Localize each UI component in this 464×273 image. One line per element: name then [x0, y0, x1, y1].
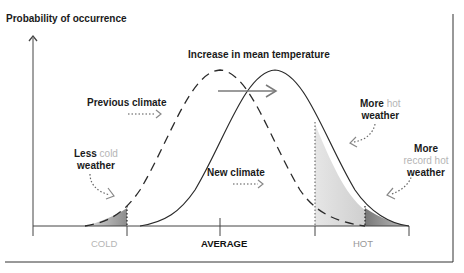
record-hot-shade — [365, 208, 409, 226]
x-label-cold: COLD — [91, 238, 117, 249]
new-climate-curve — [140, 70, 409, 226]
less-cold-weather-label: Less cold weather — [74, 148, 118, 172]
increase-mean-temperature-label: Increase in mean temperature — [188, 49, 330, 61]
new-climate-label: New climate — [207, 167, 265, 179]
cold-shade — [85, 208, 127, 226]
climate-distribution-diagram — [0, 0, 464, 273]
hot-shade — [315, 124, 365, 226]
previous-climate-label: Previous climate — [87, 97, 166, 109]
x-label-average: AVERAGE — [201, 238, 247, 249]
more-record-hot-weather-label: More record hot weather — [395, 143, 457, 179]
y-axis-title: Probability of occurrence — [6, 13, 127, 25]
more-hot-weather-label: More hot weather — [360, 98, 401, 122]
x-label-hot: HOT — [353, 238, 373, 249]
